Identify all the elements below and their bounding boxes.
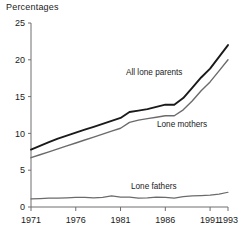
x-tick-label: 1981 <box>111 215 131 225</box>
line-chart-plot: 0510152025 197119761981198619911993 All … <box>0 0 239 236</box>
chart-container: Percentages 0510152025 19711976198119861… <box>0 0 239 236</box>
x-tick-label: 1976 <box>66 215 86 225</box>
series-label-lone-fathers: Lone fathers <box>131 182 177 191</box>
y-axis-tick-labels: 0510152025 <box>15 18 25 212</box>
x-tick-label: 1986 <box>155 215 175 225</box>
y-tick-label: 5 <box>20 165 25 175</box>
series-label-lone-mothers: Lone mothers <box>157 120 207 129</box>
series-line-lone-fathers <box>31 192 228 199</box>
y-tick-label: 0 <box>20 202 25 212</box>
x-tick-label: 1971 <box>21 215 41 225</box>
series-line-all-lone-parents <box>31 45 228 150</box>
series-annotation-labels: All lone parentsLone mothersLone fathers <box>126 68 207 191</box>
y-tick-label: 15 <box>15 92 25 102</box>
y-tick-label: 10 <box>15 129 25 139</box>
series-label-all-lone-parents: All lone parents <box>126 68 182 77</box>
x-tick-label: 1993 <box>218 215 238 225</box>
y-tick-label: 20 <box>15 55 25 65</box>
axis-tick-marks <box>28 23 228 211</box>
x-axis-tick-labels: 197119761981198619911993 <box>21 215 238 225</box>
y-tick-label: 25 <box>15 18 25 28</box>
